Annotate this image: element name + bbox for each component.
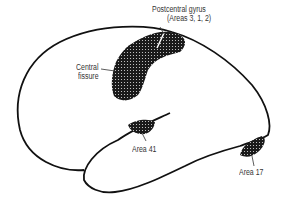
brain-diagram: Postcentral gyrus (Areas 3, 1, 2) Centra…	[0, 0, 283, 206]
area-17-region	[240, 136, 265, 157]
postcentral-areas-label: (Areas 3, 1, 2)	[167, 14, 211, 23]
central-fissure-label-2: fissure	[78, 72, 99, 81]
central-fissure-region	[112, 32, 185, 101]
area-41-label: Area 41	[132, 145, 156, 154]
area-17-label: Area 17	[239, 168, 263, 177]
